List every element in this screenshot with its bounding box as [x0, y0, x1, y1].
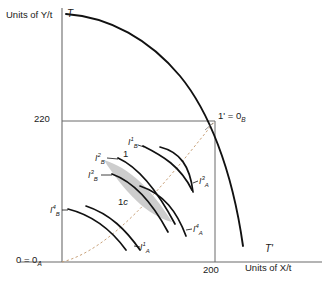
label-indifference-curve-b1: I1B — [128, 136, 138, 149]
leader-line-b2 — [107, 158, 118, 159]
label-indifference-curve-a3: I3A — [199, 175, 209, 188]
x-tick-200: 200 — [203, 264, 219, 275]
origin-label: 0 = 0A — [16, 254, 42, 267]
label-indifference-curve-b4: I4B — [50, 204, 60, 217]
label-indifference-curve-a4: I4A — [193, 223, 203, 236]
point-1c-label: 1c — [118, 196, 128, 207]
box-corner-label: 1' = 0B — [218, 110, 246, 123]
ppf-top-label: T — [67, 8, 73, 19]
figure-canvas — [0, 0, 330, 287]
label-indifference-curve-b3: I3B — [88, 169, 98, 182]
economics-figure: Units of Y/t Units of X/t T T' 220 200 1… — [0, 0, 330, 287]
indifference-curve-a1 — [86, 206, 140, 250]
point-1-label: 1 — [123, 148, 128, 159]
label-indifference-curve-b2: I2B — [95, 152, 105, 165]
label-indifference-curve-a1: I1A — [140, 241, 150, 254]
y-axis-label: Units of Y/t — [6, 9, 52, 20]
leader-line-a4 — [186, 229, 192, 230]
y-tick-220: 220 — [34, 113, 50, 124]
indifference-curve-b1 — [143, 146, 192, 190]
x-axis-label: Units of X/t — [245, 262, 291, 273]
ppf-bottom-label: T' — [265, 243, 273, 254]
leader-line-a3 — [193, 181, 198, 183]
